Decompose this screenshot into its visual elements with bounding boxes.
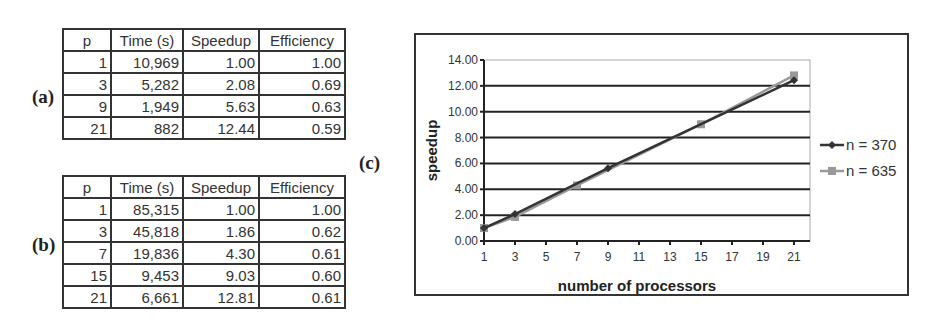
x-tick-label: 21 [787, 250, 801, 264]
table-cell: 1.00 [183, 51, 259, 73]
x-tick-label: 9 [605, 250, 612, 264]
table-row: 185,3151.001.00 [63, 198, 345, 220]
table-cell: 10,969 [111, 51, 183, 73]
legend-marker-icon [828, 167, 836, 175]
x-axis-title: number of processors [558, 277, 716, 294]
x-tick-label: 17 [725, 250, 739, 264]
table-cell: 1,949 [111, 95, 183, 117]
column-header: Efficiency [259, 29, 345, 51]
x-tick-label: 5 [543, 250, 550, 264]
y-tick-label: 4.00 [455, 182, 479, 196]
y-tick-label: 12.00 [448, 79, 478, 93]
table-cell: 1.00 [259, 198, 345, 220]
table-cell: 5.63 [183, 95, 259, 117]
table-cell: 0.60 [259, 264, 345, 286]
legend-label: n = 635 [846, 162, 896, 179]
y-tick-label: 0.00 [455, 234, 479, 248]
x-tick-label: 19 [756, 250, 770, 264]
column-header: Speedup [183, 176, 259, 198]
table-cell: 9,453 [111, 264, 183, 286]
table-row: 91,9495.630.63 [63, 95, 345, 117]
table-cell: 45,818 [111, 220, 183, 242]
results-table-a: pTime (s)SpeedupEfficiency 110,9691.001.… [62, 28, 346, 140]
panel-label-c: (c) [359, 152, 380, 174]
panel-label-a: (a) [32, 86, 54, 108]
column-header: Efficiency [259, 176, 345, 198]
column-header: Speedup [183, 29, 259, 51]
table-cell: 1.00 [259, 51, 345, 73]
table-header-row: pTime (s)SpeedupEfficiency [63, 176, 345, 198]
column-header: p [63, 176, 111, 198]
x-tick-label: 7 [574, 250, 581, 264]
speedup-chart: 0.002.004.006.008.0010.0012.0014.0013579… [414, 33, 909, 296]
table-cell: 0.59 [259, 117, 345, 139]
table-cell: 1.86 [183, 220, 259, 242]
table-cell: 0.61 [259, 242, 345, 264]
table-cell: 19,836 [111, 242, 183, 264]
table-row: 35,2822.080.69 [63, 73, 345, 95]
column-header: p [63, 29, 111, 51]
y-axis-title: speedup [423, 120, 440, 182]
table-cell: 1 [63, 198, 111, 220]
x-tick-label: 13 [663, 250, 677, 264]
table-cell: 7 [63, 242, 111, 264]
x-tick-label: 15 [694, 250, 708, 264]
table-cell: 21 [63, 117, 111, 139]
y-tick-label: 6.00 [455, 156, 479, 170]
column-header: Time (s) [111, 176, 183, 198]
table-cell: 0.61 [259, 286, 345, 308]
legend-label: n = 370 [846, 136, 896, 153]
table-cell: 1 [63, 51, 111, 73]
y-tick-label: 14.00 [448, 53, 478, 67]
y-tick-label: 8.00 [455, 131, 479, 145]
x-tick-label: 11 [633, 250, 646, 264]
x-tick-label: 3 [512, 250, 519, 264]
table-row: 110,9691.001.00 [63, 51, 345, 73]
legend-marker-icon [828, 141, 836, 149]
y-tick-label: 2.00 [455, 208, 479, 222]
table-cell: 4.30 [183, 242, 259, 264]
table-cell: 21 [63, 286, 111, 308]
table-cell: 2.08 [183, 73, 259, 95]
x-tick-label: 1 [481, 250, 488, 264]
results-table-b: pTime (s)SpeedupEfficiency 185,3151.001.… [62, 175, 346, 309]
table-cell: 9.03 [183, 264, 259, 286]
table-cell: 15 [63, 264, 111, 286]
series-line-n370 [484, 80, 794, 228]
column-header: Time (s) [111, 29, 183, 51]
table-cell: 5,282 [111, 73, 183, 95]
y-tick-label: 10.00 [448, 105, 478, 119]
table-header-row: pTime (s)SpeedupEfficiency [63, 29, 345, 51]
table-row: 216,66112.810.61 [63, 286, 345, 308]
panel-label-b: (b) [32, 234, 55, 256]
table-cell: 12.81 [183, 286, 259, 308]
table-cell: 1.00 [183, 198, 259, 220]
table-cell: 0.62 [259, 220, 345, 242]
table-cell: 6,661 [111, 286, 183, 308]
table-cell: 85,315 [111, 198, 183, 220]
table-cell: 9 [63, 95, 111, 117]
table-cell: 882 [111, 117, 183, 139]
speedup-chart-svg: 0.002.004.006.008.0010.0012.0014.0013579… [416, 35, 911, 298]
table-row: 345,8181.860.62 [63, 220, 345, 242]
table-cell: 3 [63, 220, 111, 242]
table-row: 2188212.440.59 [63, 117, 345, 139]
table-row: 159,4539.030.60 [63, 264, 345, 286]
table-cell: 0.69 [259, 73, 345, 95]
table-cell: 0.63 [259, 95, 345, 117]
table-cell: 12.44 [183, 117, 259, 139]
table-cell: 3 [63, 73, 111, 95]
table-row: 719,8364.300.61 [63, 242, 345, 264]
